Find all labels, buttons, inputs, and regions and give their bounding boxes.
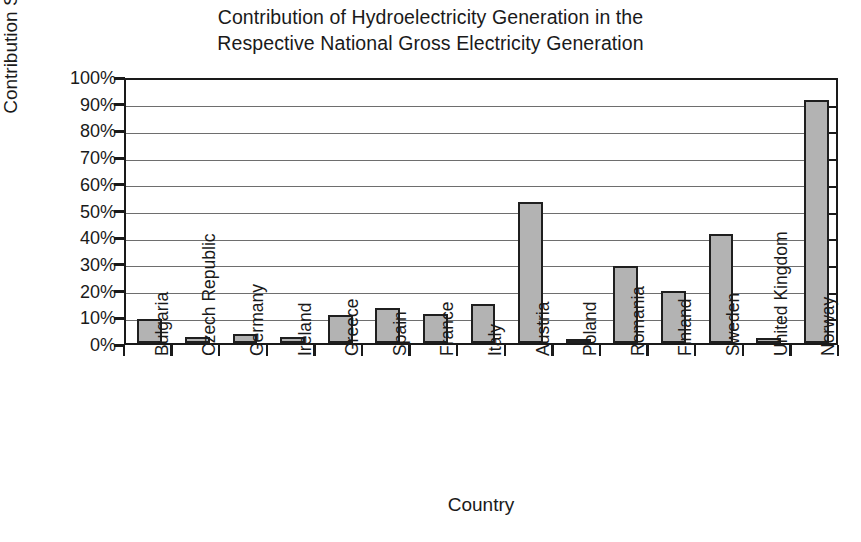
x-axis-tick-label: Norway [820,297,838,356]
gridline [126,186,836,187]
x-axis-tick-label: Finland [677,299,695,356]
gridline [126,106,836,107]
x-axis-title: Country [124,494,838,516]
gridline [126,133,836,134]
y-axis-tick-label: 80% [48,122,116,140]
y-axis-tick-label: 70% [48,149,116,167]
y-axis-tick-label: 10% [48,309,116,327]
y-axis-tick-label: 60% [48,176,116,194]
y-axis-tick-label: 0% [48,336,116,354]
x-axis-tick-label: Sweden [725,293,743,356]
x-axis-tick-label: Spain [392,311,410,356]
y-axis-tick-labels: 100%90%80%70%60%50%40%30%20%10%0% [46,0,116,542]
y-axis-tick-label: 100% [48,69,116,87]
y-axis-title: Contribution Share (2016) [0,0,30,138]
x-axis-tick-label: Bulgaria [154,292,172,356]
x-axis-tick-mark [123,345,126,356]
y-axis-tick-label: 40% [48,229,116,247]
y-axis-tick-label: 30% [48,256,116,274]
x-axis-tick-label: Germany [249,284,267,356]
x-axis-tick-label: United Kingdom [773,231,791,356]
x-axis-tick-label: Romania [630,286,648,356]
x-axis-tick-label: Italy [487,324,505,356]
x-axis-tick-label: Czech Republic [201,233,219,356]
gridline [126,213,836,214]
y-axis-tick-label: 50% [48,203,116,221]
x-axis-tick-label: Greece [344,299,362,356]
chart-title-line-2: Respective National Gross Electricity Ge… [0,30,861,56]
chart-title: Contribution of Hydroelectricity Generat… [0,4,861,56]
y-axis-tick-label: 90% [48,96,116,114]
x-axis-tick-label: Austria [535,302,553,356]
x-axis-tick-label: Ireland [297,302,315,356]
chart-title-line-1: Contribution of Hydroelectricity Generat… [0,4,861,30]
x-axis-tick-label: France [439,302,457,356]
chart-container: Contribution of Hydroelectricity Generat… [0,0,861,542]
y-axis-tick-label: 20% [48,283,116,301]
x-axis-tick-label: Poland [582,302,600,357]
gridline [126,160,836,161]
